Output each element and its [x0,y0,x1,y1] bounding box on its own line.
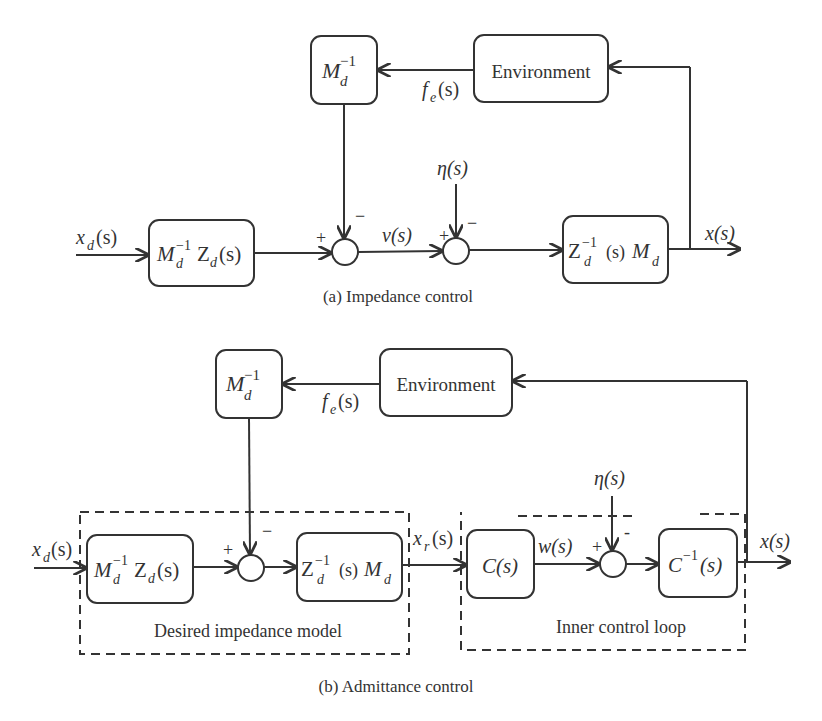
svg-text:−1: −1 [683,548,698,563]
svg-text:d: d [340,73,348,89]
block-minv-b: M d −1 [216,350,282,418]
block-plant-b: C −1 (s) [659,529,737,597]
svg-text:f: f [322,390,330,413]
svg-text:d: d [210,255,218,270]
svg-text:C: C [668,553,683,577]
svg-text:M: M [225,371,246,396]
sign-minus-2-b: - [624,522,630,542]
svg-text:(s): (s) [219,242,241,266]
block-output-a: Z d −1 (s) M d [563,216,668,283]
svg-text:M: M [363,557,383,581]
svg-text:−1: −1 [582,235,597,250]
svg-text:(s): (s) [438,78,459,101]
sign-plus-2-b: + [592,537,602,557]
signal-eta-b: η(s) [594,467,625,490]
svg-text:e: e [430,90,436,105]
sign-minus-1-b: − [262,521,272,541]
svg-text:d: d [176,256,184,271]
block-environment-b: Environment [380,349,512,416]
sign-plus-1-a: + [316,228,326,248]
svg-text:r: r [424,539,430,554]
svg-text:d: d [148,571,156,586]
svg-text:(s): (s) [700,553,722,577]
svg-text:M: M [321,58,342,83]
group-label-inner-loop: Inner control loop [556,617,686,637]
caption-b: (b) Admittance control [319,677,474,696]
svg-text:−1: −1 [176,238,191,253]
block-environment-a: Environment [474,35,608,102]
block-input-a: M d −1 Z d (s) [149,220,254,286]
signal-eta-a: η(s) [437,157,468,180]
svg-text:(s): (s) [339,560,358,581]
block-input-b: M d −1 Z d (s) [87,535,193,603]
svg-text:Z: Z [197,242,210,266]
diagram-impedance-control: M d −1 Environment M d −1 Z d (s) Z d −1… [75,35,740,306]
svg-text:x: x [75,226,85,248]
sign-minus-1-a: − [355,206,365,226]
signal-xd-a: x d (s) [75,226,117,253]
summing-junction-1-b [238,555,264,581]
svg-text:d: d [652,254,660,269]
group-label-desired-impedance: Desired impedance model [154,621,342,641]
svg-text:(s): (s) [96,226,117,249]
signal-v-a: v(s) [382,224,412,247]
svg-text:Z: Z [134,558,147,582]
svg-text:(s): (s) [432,527,453,550]
svg-text:(s): (s) [51,538,72,561]
svg-text:M: M [93,558,113,582]
svg-text:d: d [317,572,325,587]
summing-junction-2-b [600,551,626,577]
summing-junction-1-a [332,239,358,265]
sign-plus-2-a: + [439,226,449,246]
svg-text:−1: −1 [315,553,330,568]
signal-fe-b: f e (s) [322,390,359,417]
svg-text:(s): (s) [606,242,625,263]
signal-xd-b: x d (s) [31,538,72,565]
signal-xr-b: x r (s) [412,527,453,554]
control-diagrams: M d −1 Environment M d −1 Z d (s) Z d −1… [0,0,822,721]
svg-text:(s): (s) [157,558,179,582]
svg-text:d: d [244,387,252,403]
svg-text:M: M [156,242,176,266]
svg-text:d: d [87,238,95,253]
block-impedance-b: Z d −1 (s) M d [297,533,402,601]
signal-x-b: x(s) [759,530,790,553]
svg-text:Z: Z [301,557,314,581]
signal-w-b: w(s) [538,535,573,558]
caption-a: (a) Impedance control [323,287,473,306]
svg-text:(s): (s) [338,390,359,413]
svg-text:M: M [631,239,651,263]
svg-text:C(s): C(s) [482,554,518,578]
svg-text:−1: −1 [244,367,260,383]
svg-text:x: x [412,527,422,549]
svg-text:f: f [422,78,430,101]
sign-plus-1-b: + [223,540,233,560]
diagram-admittance-control: Desired impedance model Inner control lo… [31,349,790,696]
block-minv-a: M d −1 [311,36,377,104]
signal-x-a: x(s) [704,222,735,245]
svg-text:d: d [384,572,392,587]
svg-text:−1: −1 [340,53,356,69]
block-controller-b: C(s) [467,530,534,598]
svg-text:Environment: Environment [396,374,496,395]
svg-text:Environment: Environment [491,61,591,82]
svg-text:e: e [330,402,336,417]
svg-text:d: d [43,550,51,565]
sign-minus-2-a: − [467,213,477,233]
svg-text:d: d [584,254,592,269]
svg-text:Z: Z [568,239,581,263]
svg-text:−1: −1 [113,553,128,568]
signal-fe-a: f e (s) [422,78,459,105]
svg-text:x: x [31,538,41,560]
svg-text:d: d [113,572,121,587]
